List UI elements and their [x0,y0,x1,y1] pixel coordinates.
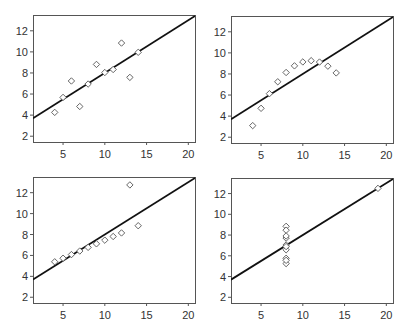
y-tick-label: 6 [220,250,226,262]
data-point-diamond-icon [60,94,66,100]
x-tick-label: 5 [258,149,264,161]
x-tick-label: 15 [338,149,350,161]
data-point-diamond-icon [110,233,116,239]
y-tick-label: 8 [22,229,28,241]
plot-frame [232,17,394,144]
plot-frame [232,179,394,304]
x-tick-label: 5 [258,309,264,321]
regression-line [33,178,195,279]
data-point-diamond-icon [250,122,256,128]
y-tick-label: 10 [16,46,28,58]
y-tick-label: 8 [220,68,226,80]
data-point-diamond-icon [291,63,297,69]
y-tick-label: 6 [22,88,28,100]
data-point-diamond-icon [325,63,331,69]
y-tick-label: 2 [22,291,28,303]
data-point-diamond-icon [300,59,306,65]
x-tick-label: 5 [60,309,66,321]
data-point-diamond-icon [275,79,281,85]
y-tick-label: 12 [214,26,226,38]
data-point-diamond-icon [127,74,133,80]
data-point-diamond-icon [127,182,133,188]
y-tick-label: 10 [16,208,28,220]
anscombe-quartet-chart: 2468101251015202468101251015202468101251… [0,0,407,335]
x-tick-label: 5 [60,148,66,160]
data-point-diamond-icon [283,69,289,75]
y-tick-label: 2 [220,291,226,303]
x-tick-label: 15 [140,148,152,160]
y-tick-label: 8 [22,67,28,79]
data-point-diamond-icon [118,230,124,236]
x-tick-label: 15 [338,309,350,321]
data-point-diamond-icon [77,103,83,109]
y-tick-label: 2 [22,130,28,142]
plot-frame [34,178,196,304]
y-tick-label: 12 [16,187,28,199]
x-tick-label: 10 [99,309,111,321]
x-tick-label: 20 [380,309,392,321]
y-tick-label: 10 [214,208,226,220]
data-point-diamond-icon [258,105,264,111]
x-tick-label: 20 [380,149,392,161]
data-point-diamond-icon [85,244,91,250]
plot-frame [34,16,196,143]
y-tick-label: 6 [22,249,28,261]
scatter-panel-2: 246810125101520 [214,17,394,162]
x-tick-label: 10 [297,309,309,321]
y-tick-label: 4 [22,109,28,121]
data-point-diamond-icon [68,78,74,84]
scatter-panel-4: 246810125101520 [214,179,394,322]
scatter-panel-1: 246810125101520 [16,16,196,161]
data-point-diamond-icon [102,237,108,243]
y-tick-label: 2 [220,131,226,143]
x-tick-label: 10 [99,148,111,160]
y-tick-label: 4 [22,270,28,282]
regression-line [231,179,393,280]
y-tick-label: 4 [220,271,226,283]
y-tick-label: 12 [16,25,28,37]
x-tick-label: 15 [140,309,152,321]
y-tick-label: 8 [220,229,226,241]
data-point-diamond-icon [52,109,58,115]
x-tick-label: 10 [297,149,309,161]
x-tick-label: 20 [182,309,194,321]
scatter-panel-3: 246810125101520 [16,178,196,322]
data-point-diamond-icon [93,61,99,67]
data-point-diamond-icon [308,57,314,63]
y-tick-label: 6 [220,89,226,101]
data-point-diamond-icon [60,255,66,261]
y-tick-label: 4 [220,110,226,122]
regression-line [231,17,393,119]
data-point-diamond-icon [118,40,124,46]
y-tick-label: 12 [214,188,226,200]
data-point-diamond-icon [333,70,339,76]
y-tick-label: 10 [214,47,226,59]
data-point-diamond-icon [135,223,141,229]
x-tick-label: 20 [182,148,194,160]
